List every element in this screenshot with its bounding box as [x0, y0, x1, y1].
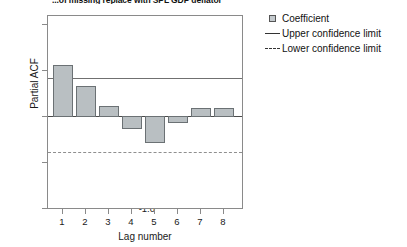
x-tick-mark-8	[223, 209, 224, 214]
y-axis-label: Partial ACF	[29, 24, 40, 144]
legend-label-lower-confidence-limit: Lower confidence limit	[282, 41, 381, 56]
x-tick-mark-7	[200, 209, 201, 214]
bar-lag-5[interactable]	[145, 116, 165, 143]
bar-lag-4[interactable]	[122, 116, 142, 129]
bar-lag-2[interactable]	[76, 86, 96, 117]
x-tick-mark-4	[131, 209, 132, 214]
x-tick-mark-5	[154, 209, 155, 214]
bar-lag-7[interactable]	[191, 108, 211, 117]
plot-frame	[47, 15, 243, 209]
x-tick-label-3: 3	[97, 216, 119, 227]
legend-label-upper-confidence-limit: Upper confidence limit	[282, 26, 381, 41]
x-tick-label-4: 4	[120, 216, 142, 227]
bar-lag-1[interactable]	[53, 65, 73, 117]
bar-lag-3[interactable]	[99, 106, 119, 117]
x-tick-label-2: 2	[74, 216, 96, 227]
x-tick-label-6: 6	[166, 216, 188, 227]
x-tick-mark-2	[85, 209, 86, 214]
chart-legend: Coefficient Upper confidence limit Lower…	[262, 11, 407, 56]
bar-lag-6[interactable]	[168, 116, 188, 123]
dashed-line-icon	[262, 41, 282, 56]
upper-confidence-limit-line	[48, 78, 242, 79]
bar-lag-8[interactable]	[214, 108, 234, 117]
x-tick-label-5: 5	[143, 216, 165, 227]
x-tick-mark-3	[108, 209, 109, 214]
x-axis-label: Lag number	[47, 231, 243, 242]
x-tick-mark-6	[177, 209, 178, 214]
lower-confidence-limit-line	[48, 152, 242, 153]
plot-area	[48, 16, 242, 208]
legend-item-upper-confidence-limit: Upper confidence limit	[262, 26, 407, 41]
x-tick-label-1: 1	[51, 216, 73, 227]
chart-title: ...of missing replace with SPL GDP defla…	[52, 0, 282, 4]
x-tick-label-7: 7	[189, 216, 211, 227]
legend-item-coefficient: Coefficient	[262, 11, 407, 26]
solid-line-icon	[262, 26, 282, 41]
legend-label-coefficient: Coefficient	[282, 11, 329, 26]
x-tick-label-8: 8	[212, 216, 234, 227]
legend-item-lower-confidence-limit: Lower confidence limit	[262, 41, 407, 56]
swatch-icon	[262, 11, 282, 26]
x-tick-mark-1	[62, 209, 63, 214]
